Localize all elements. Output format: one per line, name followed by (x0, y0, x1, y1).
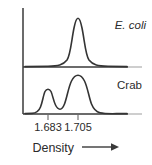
right-arrow-icon (82, 142, 120, 155)
x-tick-label-1-705: 1.705 (54, 122, 102, 133)
panel-label-crab: Crab (117, 80, 142, 92)
panel-label-ecoli: E. coli (115, 20, 146, 32)
x-axis-title: Density (0, 142, 152, 155)
x-axis-title-text: Density (32, 142, 74, 155)
crab-density-curve (25, 75, 127, 114)
density-gradient-figure: E. coli Crab 1.683 1.705 Density (0, 0, 152, 165)
ecoli-density-curve (25, 18, 127, 66)
